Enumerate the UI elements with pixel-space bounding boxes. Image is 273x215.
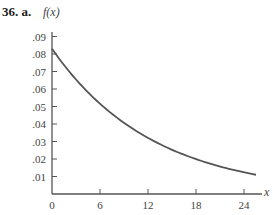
y-tick-label: .09: [32, 31, 46, 43]
y-tick-label: .04: [32, 118, 46, 130]
x-tick-label: 0: [49, 199, 55, 211]
x-tick-label: 6: [97, 199, 103, 211]
y-tick-label: .05: [32, 101, 46, 113]
x-tick-label: 18: [191, 199, 203, 211]
f-x-curve: [52, 49, 256, 175]
y-tick-label: .07: [32, 66, 46, 78]
y-tick-label: .08: [32, 48, 46, 60]
x-tick-label: 24: [239, 199, 251, 211]
decay-curve-chart: .01.02.03.04.05.06.07.08.0906121824: [0, 0, 273, 215]
y-tick-label: .03: [32, 136, 46, 148]
y-tick-label: .06: [32, 83, 46, 95]
x-tick-label: 12: [143, 199, 154, 211]
y-tick-label: .02: [32, 153, 46, 165]
y-tick-label: .01: [32, 171, 46, 183]
